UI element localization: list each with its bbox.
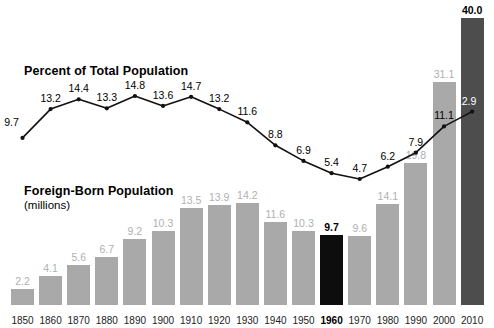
percent-value-label-1980: 6.2 bbox=[373, 150, 403, 162]
year-label-1970: 1970 bbox=[345, 315, 374, 326]
year-label-1950: 1950 bbox=[289, 315, 318, 326]
bar-1940 bbox=[264, 222, 287, 305]
bar-value-label-1850: 2.2 bbox=[5, 275, 40, 287]
bar-value-label-2000: 31.1 bbox=[427, 68, 462, 80]
year-label-1940: 1940 bbox=[261, 315, 290, 326]
bar-value-label-1880: 6.7 bbox=[89, 243, 124, 255]
bar-value-label-1980: 14.1 bbox=[370, 190, 405, 202]
percent-value-label-1950: 6.9 bbox=[289, 144, 319, 156]
bar-1870 bbox=[67, 265, 90, 305]
percent-point-1900 bbox=[161, 104, 165, 108]
percent-point-1920 bbox=[217, 107, 221, 111]
bar-1970 bbox=[348, 236, 371, 305]
percent-value-label-1910: 14.7 bbox=[176, 80, 206, 92]
bar-1860 bbox=[39, 276, 62, 305]
year-label-1900: 1900 bbox=[149, 315, 178, 326]
percent-point-1960 bbox=[330, 171, 334, 175]
percent-value-label-2010: 12.9 bbox=[451, 95, 481, 107]
percent-value-label-1940: 8.8 bbox=[260, 128, 290, 140]
year-label-1920: 1920 bbox=[205, 315, 234, 326]
percent-value-label-1970: 4.7 bbox=[345, 162, 375, 174]
bar-1850 bbox=[11, 289, 34, 305]
bar-value-label-1990: 19.8 bbox=[398, 149, 433, 161]
percent-point-1850 bbox=[20, 136, 24, 140]
percent-value-label-1920: 13.2 bbox=[204, 92, 234, 104]
percent-value-label-1860: 13.2 bbox=[36, 92, 66, 104]
percent-value-label-1870: 14.4 bbox=[64, 82, 94, 94]
percent-point-1890 bbox=[133, 94, 137, 98]
percent-point-1880 bbox=[105, 106, 109, 110]
bar-1900 bbox=[152, 231, 175, 305]
year-label-1870: 1870 bbox=[64, 315, 93, 326]
percent-value-label-1900: 13.6 bbox=[148, 89, 178, 101]
percent-point-1930 bbox=[245, 120, 249, 124]
year-label-1980: 1980 bbox=[373, 315, 402, 326]
percent-value-label-1990: 7.9 bbox=[401, 136, 431, 148]
bar-value-label-1900: 10.3 bbox=[146, 217, 181, 229]
percent-value-label-1960: 5.4 bbox=[317, 156, 347, 168]
year-label-1990: 1990 bbox=[401, 315, 430, 326]
year-label-1960: 1960 bbox=[317, 315, 346, 326]
foreign-born-series-title: Foreign-Born Population bbox=[24, 184, 174, 198]
percent-point-1950 bbox=[301, 159, 305, 163]
percent-point-1910 bbox=[189, 95, 193, 99]
bar-1910 bbox=[180, 208, 203, 305]
percent-point-1860 bbox=[49, 107, 53, 111]
percent-point-1980 bbox=[386, 165, 390, 169]
bar-1920 bbox=[208, 205, 231, 305]
percent-point-1970 bbox=[358, 177, 362, 181]
bar-value-label-1970: 9.6 bbox=[342, 222, 377, 234]
bar-1990 bbox=[404, 163, 427, 305]
percent-point-1940 bbox=[273, 143, 277, 147]
bar-1980 bbox=[376, 204, 399, 305]
percent-series-title: Percent of Total Population bbox=[24, 64, 188, 78]
year-label-1890: 1890 bbox=[120, 315, 149, 326]
chart-root: Percent of Total Population Foreign-Born… bbox=[0, 0, 494, 328]
bar-1950 bbox=[292, 231, 315, 305]
year-label-1930: 1930 bbox=[233, 315, 262, 326]
percent-value-label-2000: 11.1 bbox=[429, 109, 459, 121]
bar-2010 bbox=[461, 18, 484, 305]
bar-value-label-2010: 40.0 bbox=[455, 4, 490, 16]
bar-1880 bbox=[95, 257, 118, 305]
percent-point-1870 bbox=[77, 97, 81, 101]
foreign-born-series-units: (millions) bbox=[24, 199, 70, 211]
year-label-1910: 1910 bbox=[177, 315, 206, 326]
year-label-1880: 1880 bbox=[92, 315, 121, 326]
year-label-1860: 1860 bbox=[36, 315, 65, 326]
percent-value-label-1890: 14.8 bbox=[120, 79, 150, 91]
year-label-2010: 2010 bbox=[458, 315, 487, 326]
bar-1930 bbox=[236, 203, 259, 305]
bar-value-label-1860: 4.1 bbox=[33, 262, 68, 274]
year-label-2000: 2000 bbox=[430, 315, 459, 326]
bar-value-label-1930: 14.2 bbox=[230, 189, 265, 201]
percent-value-label-1930: 11.6 bbox=[232, 105, 262, 117]
year-label-1850: 1850 bbox=[8, 315, 37, 326]
bar-1890 bbox=[123, 239, 146, 305]
percent-value-label-1880: 13.3 bbox=[92, 91, 122, 103]
bar-1960 bbox=[320, 235, 343, 305]
percent-value-label-1850: 9.7 bbox=[0, 116, 27, 128]
